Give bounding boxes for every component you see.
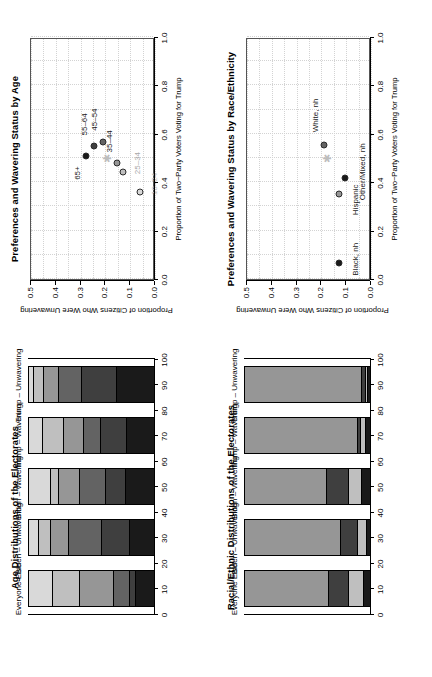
- bar-axis-tick-label: 30: [376, 534, 385, 543]
- scatter-gridline-v: [31, 181, 153, 182]
- scatter-x-tick: [370, 231, 374, 232]
- scatter-gridline-v: [247, 230, 369, 231]
- bar-axis-tick: [154, 487, 158, 488]
- scatter-gridline-v: [247, 181, 369, 182]
- scatter-y-tick-label: 0.3: [75, 287, 84, 298]
- scatter-gridline-v: [31, 60, 153, 61]
- bar-segment: [58, 469, 79, 504]
- rotated-figure-wrapper: Age Distributions of the Electorates 010…: [0, 0, 432, 677]
- bar-trump-unwavering: [28, 366, 154, 403]
- scatter-y-tick: [104, 281, 105, 285]
- scatter-gridline-v: [31, 230, 153, 231]
- bar-everyone-else: [244, 570, 370, 607]
- bar-gridline: [244, 460, 370, 461]
- scatter-x-tick: [370, 37, 374, 38]
- scatter-y-tick: [320, 281, 321, 285]
- scatter-x-tick: [370, 279, 374, 280]
- scatter-x-tick-label: 0.8: [160, 81, 169, 92]
- scatter-gridline-h: [43, 39, 44, 279]
- bar-segment: [50, 469, 58, 504]
- scatter-y-tick-label: 0.2: [316, 287, 325, 298]
- scatter-gridline-v: [31, 84, 153, 85]
- bar-axis-tick-label: 40: [160, 509, 169, 518]
- bar-segment: [100, 418, 126, 453]
- bar-axis-tick: [154, 589, 158, 590]
- bar-axis-tick-label: 100: [160, 353, 169, 366]
- bar-segment: [42, 418, 63, 453]
- bar-segment: [81, 367, 116, 402]
- bar-segment: [113, 571, 128, 606]
- bar-segment: [357, 520, 366, 555]
- scatter-gridline-h: [93, 39, 94, 279]
- scatter-y-tick-label: 0.0: [366, 287, 375, 298]
- scatter-gridline-v: [247, 84, 369, 85]
- bar-axis-tick-label: 80: [376, 407, 385, 416]
- panel-age-scatter: Preferences and Wavering Status by Age ✱…: [0, 0, 216, 338]
- bar-segment: [340, 520, 358, 555]
- scatter-gridline-h: [155, 39, 156, 279]
- scatter-x-tick-label: 0.0: [376, 274, 385, 285]
- bar-segment: [79, 571, 113, 606]
- scatter-gridline-v: [31, 205, 153, 206]
- bar-axis-tick: [154, 563, 158, 564]
- bar-axis-tick-label: 70: [376, 432, 385, 441]
- scatter-x-tick-label: 0.4: [160, 178, 169, 189]
- bar-axis-tick: [370, 359, 374, 360]
- scatter-y-tick-label: 0.1: [341, 287, 350, 298]
- scatter-gridline-h: [81, 39, 82, 279]
- bar-axis-tick-label: 20: [160, 560, 169, 569]
- bar-segment: [245, 469, 326, 504]
- scatter-y-tick-label: 0.5: [242, 287, 251, 298]
- bar-segment: [348, 571, 363, 606]
- bar-segment: [29, 418, 42, 453]
- scatter-gridline-h: [247, 39, 248, 279]
- scatter-gridline-v: [247, 36, 369, 37]
- bar-axis-tick: [370, 385, 374, 386]
- bar-axis-tick-label: 50: [376, 483, 385, 492]
- scatter-point: [136, 188, 143, 195]
- scatter-x-tick-label: 1.0: [160, 32, 169, 43]
- bar-segment: [245, 367, 361, 402]
- scatter-point-label: 25–34: [133, 152, 142, 174]
- scatter-point: [120, 169, 127, 176]
- bar-axis-tick: [370, 436, 374, 437]
- bar-segment: [135, 571, 155, 606]
- bar-axis-tick-label: 10: [376, 585, 385, 594]
- scatter-x-tick-label: 0.6: [160, 129, 169, 140]
- bar-segment: [38, 520, 51, 555]
- bar-axis-tick: [154, 385, 158, 386]
- age-scatter-title: Preferences and Wavering Status by Age: [9, 0, 20, 338]
- bar-axis-tick: [370, 461, 374, 462]
- bar-axis-tick-label: 60: [376, 458, 385, 467]
- scatter-y-tick: [345, 281, 346, 285]
- scatter-gridline-v: [31, 133, 153, 134]
- bar-axis-tick: [154, 410, 158, 411]
- scatter-y-tick-label: 0.4: [266, 287, 275, 298]
- scatter-gridline-v: [247, 157, 369, 158]
- scatter-x-tick-label: 0.0: [160, 274, 169, 285]
- bar-biden-wavering: [244, 468, 370, 505]
- bar-category-label: Trump – Unwavering: [14, 326, 23, 446]
- scatter-gridline-h: [346, 39, 347, 279]
- bar-segment: [245, 418, 357, 453]
- bar-axis-tick: [370, 589, 374, 590]
- scatter-x-tick-label: 0.2: [160, 226, 169, 237]
- scatter-gridline-v: [31, 278, 153, 279]
- bar-axis-tick-label: 70: [160, 432, 169, 441]
- scatter-gridline-v: [247, 60, 369, 61]
- scatter-point: [114, 160, 121, 167]
- bar-axis-tick: [154, 436, 158, 437]
- bar-category-label: Trump – Unwavering: [230, 326, 239, 446]
- scatter-point: [83, 153, 90, 160]
- bar-axis-tick: [370, 614, 374, 615]
- bar-gridline: [28, 460, 154, 461]
- bar-segment: [125, 469, 155, 504]
- bar-segment: [129, 520, 155, 555]
- bar-gridline: [28, 409, 154, 410]
- bar-gridline: [28, 562, 154, 563]
- scatter-gridline-h: [284, 39, 285, 279]
- bar-axis-tick-label: 10: [160, 585, 169, 594]
- bar-biden-wavering: [28, 468, 154, 505]
- race-scatter-title: Preferences and Wavering Status by Race/…: [225, 0, 236, 338]
- bar-biden-unwavering: [28, 519, 154, 556]
